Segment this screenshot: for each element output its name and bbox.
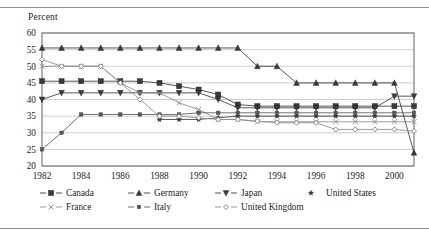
legend-row-2: FranceItalyUnited Kingdom xyxy=(0,202,429,217)
filled-triangle-down-icon xyxy=(215,188,237,198)
x-tick-label: 2000 xyxy=(385,171,404,181)
y-tick-label: 55 xyxy=(27,45,37,55)
filled-triangle-up-icon xyxy=(128,188,150,198)
cross-x-icon xyxy=(40,202,62,212)
data-point-marker xyxy=(392,104,397,109)
y-tick-label: 40 xyxy=(27,95,37,105)
series-france xyxy=(40,64,417,125)
legend-item-united-kingdom[interactable]: United Kingdom xyxy=(215,202,304,212)
y-tick-label: 30 xyxy=(27,128,37,138)
data-point-marker xyxy=(49,191,54,196)
data-point-marker xyxy=(236,111,239,114)
chart-legend: CanadaGermanyJapanUnited States FranceIt… xyxy=(0,188,429,222)
series-line xyxy=(42,60,414,131)
x-tick-label: 1982 xyxy=(33,171,52,181)
data-point-marker xyxy=(137,205,140,208)
data-point-marker xyxy=(223,191,229,197)
data-point-marker xyxy=(40,57,45,62)
legend-label: Canada xyxy=(66,188,94,198)
legend-label: Germany xyxy=(154,188,189,198)
x-tick-label: 1998 xyxy=(346,171,365,181)
data-point-marker xyxy=(333,127,338,132)
data-point-marker xyxy=(314,111,317,114)
data-point-marker xyxy=(216,92,221,97)
legend-item-italy[interactable]: Italy xyxy=(128,202,171,212)
series-line xyxy=(42,113,414,150)
filled-square-icon xyxy=(40,188,62,198)
series-line xyxy=(42,81,414,106)
figure-container: Percent 20253035404550556019821984198619… xyxy=(0,0,429,237)
legend-label: United States xyxy=(326,188,376,198)
data-point-marker xyxy=(157,80,162,85)
data-point-marker xyxy=(274,120,279,125)
filled-star-icon xyxy=(300,188,322,198)
legend-marker xyxy=(300,188,322,198)
y-tick-label: 25 xyxy=(27,145,37,155)
y-tick-label: 50 xyxy=(27,62,37,72)
data-point-marker xyxy=(314,120,319,125)
data-point-marker xyxy=(411,150,417,156)
data-point-marker xyxy=(119,113,122,116)
x-tick-label: 1984 xyxy=(72,171,91,181)
x-tick-label: 1996 xyxy=(307,171,326,181)
x-tick-label: 1986 xyxy=(111,171,130,181)
y-tick-label: 45 xyxy=(27,78,37,88)
y-tick-label: 20 xyxy=(27,161,37,171)
data-point-marker xyxy=(295,111,298,114)
legend-marker xyxy=(128,188,150,198)
data-point-marker xyxy=(217,111,220,114)
data-point-marker xyxy=(353,127,358,132)
x-tick-label: 1990 xyxy=(189,171,208,181)
data-point-marker xyxy=(256,111,259,114)
x-tick-label: 1988 xyxy=(150,171,169,181)
legend-label: Japan xyxy=(241,188,262,198)
legend-marker xyxy=(215,202,237,212)
legend-item-canada[interactable]: Canada xyxy=(40,188,94,198)
legend-marker xyxy=(215,188,237,198)
legend-item-france[interactable]: France xyxy=(40,202,91,212)
series-line xyxy=(42,66,414,122)
data-point-marker xyxy=(40,148,43,151)
data-point-marker xyxy=(308,190,314,196)
series-japan xyxy=(39,90,417,111)
data-point-marker xyxy=(136,190,142,196)
open-diamond-icon xyxy=(215,202,237,212)
series-germany xyxy=(39,45,417,155)
data-point-marker xyxy=(99,113,102,116)
data-point-marker xyxy=(137,79,142,84)
legend-label: United Kingdom xyxy=(241,202,304,212)
data-point-marker xyxy=(334,111,337,114)
data-point-marker xyxy=(177,84,182,89)
legend-item-japan[interactable]: Japan xyxy=(215,188,262,198)
data-point-marker xyxy=(79,79,84,84)
data-point-marker xyxy=(393,111,396,114)
data-point-marker xyxy=(294,120,299,125)
line-chart: 2025303540455055601982198419861988199019… xyxy=(0,0,429,190)
data-point-marker xyxy=(177,100,182,105)
x-tick-label: 1992 xyxy=(228,171,247,181)
legend-marker xyxy=(128,202,150,212)
data-point-marker xyxy=(255,119,260,124)
data-point-marker xyxy=(373,111,376,114)
y-tick-label: 60 xyxy=(27,28,37,38)
data-point-marker xyxy=(197,111,200,114)
data-point-marker xyxy=(412,104,417,109)
data-point-marker xyxy=(60,131,63,134)
small-filled-square-icon xyxy=(128,202,150,212)
data-point-marker xyxy=(372,127,377,132)
data-point-marker xyxy=(40,79,45,84)
data-point-marker xyxy=(354,111,357,114)
data-point-marker xyxy=(412,111,415,114)
data-point-marker xyxy=(98,79,103,84)
legend-item-united-states[interactable]: United States xyxy=(300,188,376,198)
data-point-marker xyxy=(49,205,54,210)
y-tick-label: 35 xyxy=(27,111,37,121)
data-point-marker xyxy=(59,79,64,84)
legend-label: France xyxy=(66,202,91,212)
data-point-marker xyxy=(79,113,82,116)
data-point-marker xyxy=(224,205,229,210)
legend-item-germany[interactable]: Germany xyxy=(128,188,189,198)
series-line xyxy=(42,48,414,153)
data-point-marker xyxy=(138,113,141,116)
legend-marker xyxy=(40,188,62,198)
